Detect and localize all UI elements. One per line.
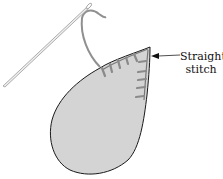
thread [82, 11, 106, 67]
callout-line-1: Straight [180, 50, 222, 63]
needle-icon [3, 2, 92, 87]
callout-label: Straight stitch [180, 50, 222, 76]
illustration: Straight stitch [0, 0, 223, 179]
arrow-icon [151, 53, 180, 59]
stitch-diagram [0, 0, 223, 179]
callout-line-2: stitch [180, 63, 222, 76]
